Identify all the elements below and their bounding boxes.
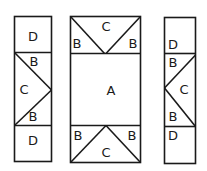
- piece-label-a: A: [107, 83, 116, 98]
- piece-label-b: B: [169, 109, 178, 124]
- piece-label-d: D: [28, 133, 38, 148]
- piece-label-b: B: [74, 128, 83, 143]
- piece-label-d: D: [28, 29, 38, 44]
- piece-label-c: C: [19, 82, 28, 97]
- center-panel: B C B A B C B: [71, 17, 141, 163]
- left-strip: D B C B D: [15, 17, 52, 162]
- piece-label-d: D: [168, 37, 178, 52]
- piece-label-c: C: [101, 19, 110, 34]
- piece-label-b: B: [29, 109, 38, 124]
- piece-label-b: B: [129, 36, 138, 51]
- piece-label-b: B: [128, 128, 137, 143]
- piece-label-c: C: [179, 82, 188, 97]
- piece-label-b: B: [30, 54, 39, 69]
- piece-label-c: C: [101, 145, 110, 160]
- quilt-diagram: D B C B D B C B A B C B D B C B D: [0, 0, 207, 171]
- right-strip: D B C B D: [165, 18, 196, 164]
- piece-label-d: D: [168, 128, 178, 143]
- piece-label-b: B: [169, 55, 178, 70]
- piece-label-b: B: [73, 36, 82, 51]
